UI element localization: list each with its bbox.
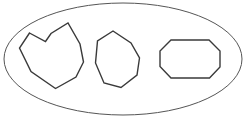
elongated-octagon bbox=[160, 40, 220, 78]
figure-svg bbox=[0, 0, 246, 131]
geometry-figure-canvas bbox=[0, 0, 246, 131]
